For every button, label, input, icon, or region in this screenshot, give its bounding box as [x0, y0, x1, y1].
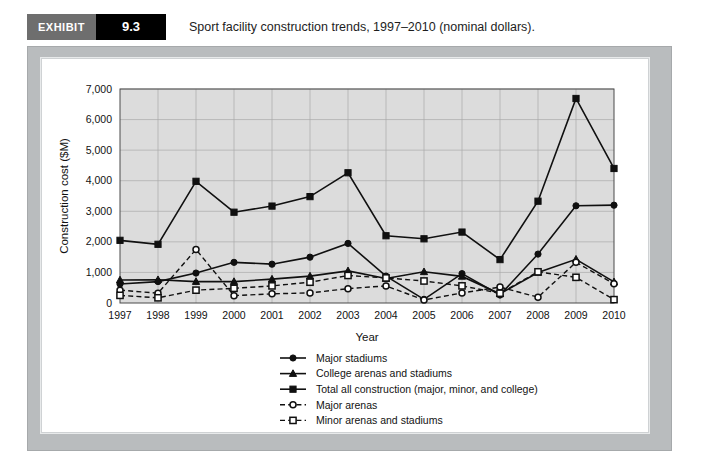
exhibit-number: 9.3 — [96, 14, 166, 40]
data-point-marker — [611, 281, 617, 287]
legend-marker — [290, 355, 296, 361]
data-point-marker — [307, 254, 313, 260]
data-point-marker — [573, 259, 579, 265]
chart-card: 01,0002,0003,0004,0005,0006,0007,0001997… — [41, 58, 649, 433]
data-point-marker — [345, 240, 351, 246]
data-point-marker — [269, 283, 275, 289]
x-tick-label: 2000 — [222, 309, 246, 321]
legend-item[interactable]: Total all construction (major, minor, an… — [280, 383, 538, 395]
data-point-marker — [421, 297, 427, 303]
x-tick-label: 2009 — [564, 309, 588, 321]
y-axis-title: Construction cost ($M) — [58, 138, 70, 254]
legend-item[interactable]: Major stadiums — [280, 352, 387, 364]
legend-marker — [290, 402, 296, 408]
data-point-marker — [421, 236, 427, 242]
data-point-marker — [231, 285, 237, 291]
x-tick-label: 2007 — [488, 309, 512, 321]
y-tick-label: 5,000 — [86, 144, 112, 156]
legend-label: Total all construction (major, minor, an… — [316, 383, 538, 395]
data-point-marker — [535, 251, 541, 257]
legend-label: Major arenas — [316, 399, 377, 411]
data-point-marker — [269, 261, 275, 267]
data-point-marker — [307, 290, 313, 296]
data-point-marker — [117, 237, 123, 243]
data-point-marker — [269, 291, 275, 297]
data-point-marker — [231, 259, 237, 265]
exhibit-header: EXHIBIT 9.3 Sport facility construction … — [27, 14, 535, 40]
legend-label: Minor arenas and stadiums — [316, 414, 443, 426]
data-point-marker — [155, 295, 161, 301]
data-point-marker — [459, 290, 465, 296]
data-point-marker — [345, 286, 351, 292]
data-point-marker — [345, 272, 351, 278]
data-point-marker — [193, 178, 199, 184]
data-point-marker — [459, 283, 465, 289]
legend-item[interactable]: Major arenas — [280, 399, 377, 411]
legend-marker — [290, 417, 296, 423]
data-point-marker — [117, 292, 123, 298]
data-point-marker — [231, 209, 237, 215]
x-tick-label: 2004 — [374, 309, 398, 321]
exhibit-frame: 01,0002,0003,0004,0005,0006,0007,0001997… — [27, 46, 672, 451]
x-tick-label: 2001 — [260, 309, 284, 321]
data-point-marker — [497, 284, 503, 290]
exhibit-tag: EXHIBIT — [27, 14, 96, 40]
y-tick-label: 4,000 — [86, 174, 112, 186]
x-tick-label: 2008 — [526, 309, 550, 321]
data-point-marker — [611, 297, 617, 303]
x-tick-label: 1997 — [108, 309, 132, 321]
x-tick-label: 2002 — [298, 309, 322, 321]
data-point-marker — [573, 203, 579, 209]
legend-label: College arenas and stadiums — [316, 367, 452, 379]
line-chart: 01,0002,0003,0004,0005,0006,0007,0001997… — [42, 59, 648, 432]
legend-item[interactable]: Minor arenas and stadiums — [280, 414, 443, 426]
data-point-marker — [383, 275, 389, 281]
x-axis-title: Year — [355, 331, 378, 343]
data-point-marker — [573, 95, 579, 101]
y-tick-label: 6,000 — [86, 113, 112, 125]
data-point-marker — [611, 165, 617, 171]
y-tick-label: 3,000 — [86, 205, 112, 217]
data-point-marker — [155, 241, 161, 247]
x-tick-label: 1999 — [184, 309, 208, 321]
data-point-marker — [497, 256, 503, 262]
exhibit-caption: Sport facility construction trends, 1997… — [189, 20, 535, 34]
data-point-marker — [307, 194, 313, 200]
x-tick-label: 1998 — [146, 309, 170, 321]
legend-marker — [290, 386, 296, 392]
data-point-marker — [573, 274, 579, 280]
y-tick-label: 1,000 — [86, 266, 112, 278]
data-point-marker — [231, 293, 237, 299]
legend-item[interactable]: College arenas and stadiums — [280, 367, 452, 379]
data-point-marker — [307, 279, 313, 285]
x-tick-label: 2010 — [602, 309, 626, 321]
data-point-marker — [459, 229, 465, 235]
data-point-marker — [611, 202, 617, 208]
x-tick-label: 2003 — [336, 309, 360, 321]
exhibit-page: EXHIBIT 9.3 Sport facility construction … — [0, 0, 704, 470]
data-point-marker — [421, 278, 427, 284]
data-point-marker — [535, 198, 541, 204]
x-tick-label: 2006 — [450, 309, 474, 321]
data-point-marker — [345, 170, 351, 176]
legend-label: Major stadiums — [316, 352, 387, 364]
data-point-marker — [535, 294, 541, 300]
y-tick-label: 2,000 — [86, 235, 112, 247]
y-tick-label: 0 — [106, 297, 112, 309]
data-point-marker — [535, 269, 541, 275]
x-tick-label: 2005 — [412, 309, 436, 321]
data-point-marker — [269, 203, 275, 209]
data-point-marker — [193, 287, 199, 293]
y-tick-label: 7,000 — [86, 83, 112, 95]
data-point-marker — [383, 233, 389, 239]
data-point-marker — [497, 290, 503, 296]
chart-area: 01,0002,0003,0004,0005,0006,0007,0001997… — [42, 59, 648, 432]
data-point-marker — [193, 270, 199, 276]
data-point-marker — [193, 247, 199, 253]
data-point-marker — [383, 283, 389, 289]
